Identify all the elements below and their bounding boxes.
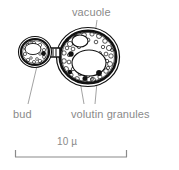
volutin-granule xyxy=(68,51,73,56)
yeast-cell-figure: vacuole bud volutin granules 10 µ xyxy=(0,0,179,170)
label-vacuole: vacuole xyxy=(72,6,111,18)
volutin-granule xyxy=(68,70,73,75)
volutin-leader-line-left xyxy=(81,84,85,104)
diagram-canvas xyxy=(0,0,179,170)
scale-bar xyxy=(15,150,127,157)
bud-leader-line xyxy=(28,66,37,104)
label-volutin-granules: volutin granules xyxy=(71,108,150,120)
bud-vacuole xyxy=(25,43,41,54)
volutin-granule xyxy=(96,70,102,76)
bud-volutin-granule xyxy=(41,51,46,56)
scale-bar-label: 10 µ xyxy=(57,136,77,148)
volutin-granule xyxy=(83,76,88,81)
label-bud: bud xyxy=(13,108,32,120)
small-vacuole xyxy=(72,35,88,47)
